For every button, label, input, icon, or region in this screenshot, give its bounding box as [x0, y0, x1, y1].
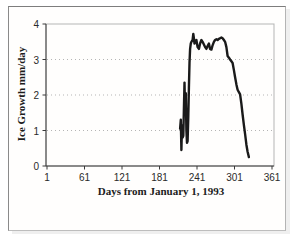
- x-axis-title: Days from January 1, 1993: [98, 185, 225, 197]
- x-tick-label: 61: [79, 172, 90, 183]
- y-tick-label: 3: [33, 54, 39, 65]
- x-tick-label: 121: [114, 172, 131, 183]
- x-tick-label: 181: [151, 172, 168, 183]
- y-tick-label: 2: [33, 90, 39, 101]
- y-tick-label: 4: [33, 19, 39, 30]
- x-tick-label: 361: [264, 172, 281, 183]
- x-tick-label: 241: [189, 172, 206, 183]
- y-axis-title: Ice Growth mm/day: [15, 47, 27, 142]
- data-line-ice-growth: [180, 34, 249, 157]
- plot-area: [0, 0, 298, 238]
- x-tick-label: 1: [44, 172, 50, 183]
- y-tick-label: 1: [33, 125, 39, 136]
- x-tick-label: 301: [226, 172, 243, 183]
- y-tick-label: 0: [33, 161, 39, 172]
